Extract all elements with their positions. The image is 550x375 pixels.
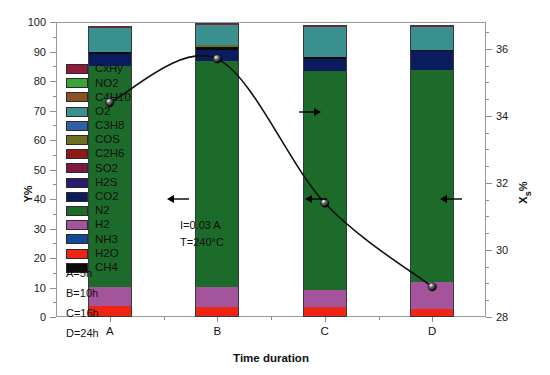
legend-item-co2[interactable]: CO2 bbox=[66, 190, 131, 204]
y-axis-left-tick-label: 20 bbox=[0, 253, 46, 264]
bar-segment-cos bbox=[196, 45, 238, 47]
legend-label: O2 bbox=[95, 106, 110, 118]
legend-label: H2 bbox=[95, 219, 110, 231]
duration-note-b: B=10h bbox=[66, 288, 98, 299]
legend-item-no2[interactable]: NO2 bbox=[66, 76, 131, 90]
y-axis-right-tick bbox=[486, 233, 489, 234]
legend-label: H2S bbox=[95, 177, 117, 189]
legend-swatch-c3h8 bbox=[66, 121, 88, 131]
y-axis-left-tick bbox=[53, 184, 56, 185]
y-axis-left-tick bbox=[53, 302, 56, 303]
legend-item-c4h10[interactable]: C4H10 bbox=[66, 90, 131, 104]
duration-note-c: C=16h bbox=[66, 308, 99, 319]
duration-note-a: A=5h bbox=[66, 268, 92, 279]
y-axis-left-tick-label: 100 bbox=[0, 17, 46, 28]
x-tick-label-b: B bbox=[213, 325, 221, 337]
legend-item-o2[interactable]: O2 bbox=[66, 105, 131, 119]
y-axis-right-tick bbox=[486, 283, 489, 284]
y-axis-right-tick bbox=[486, 149, 489, 150]
bar-segment-n2 bbox=[304, 71, 346, 290]
y-axis-right-tick-label: 30 bbox=[496, 244, 508, 255]
y-axis-left-tick bbox=[50, 258, 56, 259]
y-axis-right-tick bbox=[486, 116, 492, 117]
condition-note-current: I=0.03 A bbox=[180, 220, 221, 231]
legend-item-cxhy[interactable]: CxHy bbox=[66, 62, 131, 76]
bar-segment-co2 bbox=[196, 50, 238, 62]
y-axis-right-tick-label: 34 bbox=[496, 110, 508, 121]
y-axis-left-tick bbox=[50, 229, 56, 230]
legend-swatch-co2 bbox=[66, 192, 88, 202]
bar-segment-h2 bbox=[304, 290, 346, 307]
bar-segment-co2 bbox=[411, 50, 453, 69]
legend-swatch-nh3 bbox=[66, 234, 88, 244]
legend-item-nh3[interactable]: NH3 bbox=[66, 232, 131, 246]
legend-label: CO2 bbox=[95, 191, 119, 203]
x-axis-tick bbox=[110, 317, 111, 322]
y-axis-left-tick bbox=[50, 52, 56, 53]
y-axis-right-tick bbox=[486, 250, 492, 251]
y-axis-left-tick bbox=[50, 317, 56, 318]
bar-c[interactable] bbox=[303, 25, 347, 317]
y-axis-left-title: Y% bbox=[22, 164, 34, 224]
bar-segment-o2 bbox=[411, 27, 453, 50]
y-axis-right-tick-label: 32 bbox=[496, 177, 508, 188]
legend-swatch-no2 bbox=[66, 78, 88, 88]
bar-segment-h2o bbox=[304, 307, 346, 317]
bar-segment-o2 bbox=[304, 27, 346, 56]
legend-swatch-cos bbox=[66, 135, 88, 145]
legend-item-cos[interactable]: COS bbox=[66, 133, 131, 147]
bar-segment-h2 bbox=[411, 282, 453, 309]
legend-swatch-cxhy bbox=[66, 64, 88, 74]
legend-swatch-c4h10 bbox=[66, 92, 88, 102]
y-axis-right-tick bbox=[486, 183, 492, 184]
bar-b[interactable] bbox=[195, 23, 239, 317]
x-axis-title: Time duration bbox=[233, 352, 309, 364]
x-axis-minor-tick bbox=[379, 317, 380, 320]
legend-label: C4H10 bbox=[95, 92, 131, 104]
legend-label: NO2 bbox=[95, 78, 119, 90]
legend-swatch-c2h6 bbox=[66, 149, 88, 159]
y-axis-right-tick bbox=[486, 99, 489, 100]
y-axis-left-tick bbox=[53, 96, 56, 97]
bar-segment-ch4 bbox=[411, 50, 453, 51]
y-axis-left-tick bbox=[50, 22, 56, 23]
legend-item-c3h8[interactable]: C3H8 bbox=[66, 119, 131, 133]
y-axis-right-tick bbox=[486, 216, 489, 217]
y-axis-left-tick bbox=[50, 140, 56, 141]
bar-segment-h2 bbox=[196, 287, 238, 307]
legend-swatch-h2o bbox=[66, 249, 88, 259]
bar-segment-n2 bbox=[411, 70, 453, 282]
x-tick-label-d: D bbox=[428, 325, 436, 337]
legend-label: NH3 bbox=[95, 234, 118, 246]
bar-segment-ch4 bbox=[196, 47, 238, 50]
y-axis-left-tick bbox=[50, 111, 56, 112]
y-axis-left-tick bbox=[53, 125, 56, 126]
legend-swatch-o2 bbox=[66, 107, 88, 117]
y-axis-left-tick bbox=[53, 66, 56, 67]
legend: CxHyNO2C4H10O2C3H8COSC2H6SO2H2SCO2N2H2NH… bbox=[66, 62, 131, 275]
y-axis-left-tick-label: 90 bbox=[0, 46, 46, 57]
y-axis-left-tick bbox=[53, 273, 56, 274]
y-axis-left-tick-label: 0 bbox=[0, 312, 46, 323]
legend-item-c2h6[interactable]: C2H6 bbox=[66, 147, 131, 161]
legend-item-h2o[interactable]: H2O bbox=[66, 246, 131, 260]
bar-segment-cxhy bbox=[304, 26, 346, 27]
legend-item-n2[interactable]: N2 bbox=[66, 204, 131, 218]
bar-segment-o2 bbox=[89, 28, 131, 52]
y-axis-right-tick bbox=[486, 133, 489, 134]
legend-item-h2[interactable]: H2 bbox=[66, 218, 131, 232]
y-axis-left-tick-label: 10 bbox=[0, 282, 46, 293]
legend-label: N2 bbox=[95, 205, 110, 217]
legend-label: CxHy bbox=[95, 63, 123, 75]
legend-item-h2s[interactable]: H2S bbox=[66, 176, 131, 190]
bar-segment-n2 bbox=[196, 61, 238, 287]
legend-item-so2[interactable]: SO2 bbox=[66, 161, 131, 175]
y-axis-left-tick-label: 80 bbox=[0, 76, 46, 87]
x-tick-label-c: C bbox=[321, 325, 329, 337]
x-axis-tick bbox=[325, 317, 326, 322]
x-axis-minor-tick bbox=[271, 317, 272, 320]
bar-segment-h2o bbox=[196, 307, 238, 317]
y-axis-left-tick-label: 30 bbox=[0, 223, 46, 234]
bar-segment-h2o bbox=[411, 309, 453, 317]
bar-d[interactable] bbox=[410, 25, 454, 317]
